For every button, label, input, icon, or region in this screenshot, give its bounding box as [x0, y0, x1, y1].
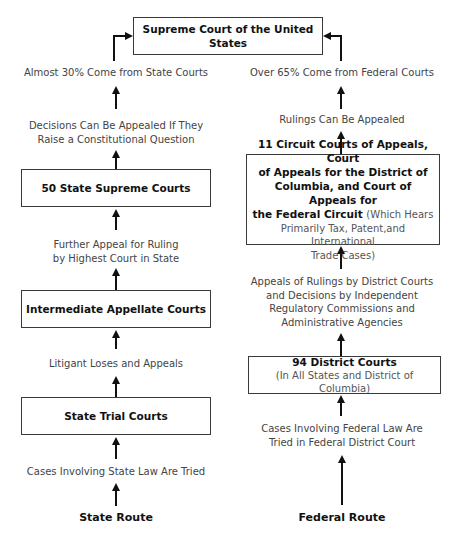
appeal-condition-line-2: Raise a Constitutional Question: [0, 133, 232, 147]
district-courts-title: 94 District Courts: [292, 355, 396, 369]
supreme-court-label: Supreme Court of the United States: [134, 22, 322, 50]
state-arrow-3: [115, 215, 117, 230]
appeal-condition-line-1: Decisions Can Be Appealed If They: [0, 119, 232, 133]
arrow-up-icon: [337, 395, 345, 403]
arrow-up-icon: [112, 86, 120, 94]
federal-arrow-3: [340, 252, 342, 269]
intermediate-courts-label: Intermediate Appellate Courts: [26, 302, 206, 316]
federal-arrow-6: [341, 461, 343, 505]
appeals-of-rulings-line-2: and Decisions by Independent: [232, 289, 452, 303]
state-cases-tried-text: Cases Involving State Law Are Tried: [27, 466, 205, 477]
federal-cases-tried: Cases Involving Federal Law Are Tried in…: [232, 422, 452, 449]
federal-share-text: Over 65% Come from Federal Courts: [250, 67, 434, 78]
circuit-courts-line-1: 11 Circuit Courts of Appeals, Court: [251, 137, 435, 165]
district-courts-subtitle: (In All States and District of Columbia): [249, 369, 440, 396]
appeals-of-rulings-line-4: Administrative Agencies: [232, 316, 452, 330]
appeals-of-rulings-line-1: Appeals of Rulings by District Courts: [232, 275, 452, 289]
state-further-appeal: Further Appeal for Ruling by Highest Cou…: [0, 238, 232, 265]
circuit-courts-line-4: the Federal Circuit (Which Hears: [253, 207, 434, 222]
state-arrow-8: [115, 489, 117, 506]
federal-cases-tried-line-1: Cases Involving Federal Law Are: [232, 422, 452, 436]
arrow-up-icon: [337, 86, 345, 94]
circuit-courts-light-inline: (Which Hears: [366, 209, 433, 220]
arrow-up-icon: [337, 333, 345, 341]
arrow-up-icon: [112, 376, 120, 384]
arrow-up-icon: [112, 330, 120, 338]
state-arrow-1: [115, 92, 117, 109]
federal-route-label: Federal Route: [232, 511, 452, 524]
circuit-courts-bold-tail: the Federal Circuit: [253, 208, 363, 220]
arrow-up-icon: [112, 437, 120, 445]
state-connector-vertical: [113, 35, 115, 61]
state-cases-tried: Cases Involving State Law Are Tried: [0, 465, 232, 479]
state-trial-courts-label: State Trial Courts: [64, 409, 167, 423]
state-route-text: State Route: [79, 511, 153, 524]
federal-connector-horizontal: [330, 35, 342, 37]
federal-rulings-appealed: Rulings Can Be Appealed: [232, 113, 452, 127]
state-arrow-4: [115, 274, 117, 290]
federal-appeals-of-rulings: Appeals of Rulings by District Courts an…: [232, 275, 452, 329]
arrow-up-icon: [112, 209, 120, 217]
federal-route-text: Federal Route: [299, 511, 386, 524]
further-appeal-line-1: Further Appeal for Ruling: [0, 238, 232, 252]
supreme-court-box: Supreme Court of the United States: [133, 17, 323, 55]
district-courts-box: 94 District Courts (In All States and Di…: [248, 356, 441, 394]
federal-arrow-4: [340, 339, 342, 356]
circuit-courts-line-2: of Appeals for the District of: [258, 165, 427, 179]
state-share-text: Almost 30% Come from State Courts: [24, 67, 208, 78]
arrow-up-icon: [337, 246, 345, 254]
arrow-up-icon: [112, 268, 120, 276]
litigant-appeals-text: Litigant Loses and Appeals: [49, 358, 183, 369]
arrow-left-icon: [323, 32, 331, 40]
state-share-label: Almost 30% Come from State Courts: [0, 66, 232, 80]
circuit-courts-box: 11 Circuit Courts of Appeals, Court of A…: [246, 154, 440, 245]
state-trial-courts-box: State Trial Courts: [21, 397, 211, 435]
state-supreme-courts-label: 50 State Supreme Courts: [41, 181, 190, 195]
federal-arrow-1: [340, 92, 342, 109]
state-route-label: State Route: [0, 511, 232, 524]
federal-connector-vertical: [340, 35, 342, 61]
circuit-courts-line-3: Columbia, and Court of Appeals for: [251, 179, 435, 207]
appeals-of-rulings-line-3: Regulatory Commissions and: [232, 302, 452, 316]
arrow-up-icon: [112, 483, 120, 491]
intermediate-appellate-courts-box: Intermediate Appellate Courts: [21, 290, 211, 328]
arrow-up-icon: [338, 455, 346, 463]
rulings-appealed-text: Rulings Can Be Appealed: [279, 114, 404, 125]
state-appeal-condition: Decisions Can Be Appealed If They Raise …: [0, 119, 232, 146]
arrow-up-icon: [112, 150, 120, 158]
federal-share-label: Over 65% Come from Federal Courts: [232, 66, 452, 80]
federal-cases-tried-line-2: Tried in Federal District Court: [232, 436, 452, 450]
further-appeal-line-2: by Highest Court in State: [0, 252, 232, 266]
state-supreme-courts-box: 50 State Supreme Courts: [21, 169, 211, 207]
state-arrow-6: [115, 382, 117, 397]
federal-arrow-5: [340, 401, 342, 416]
circuit-courts-light-line-1: Primarily Tax, Patent,and International: [251, 222, 435, 249]
arrow-right-icon: [125, 32, 133, 40]
state-litigant-appeals: Litigant Loses and Appeals: [0, 357, 232, 371]
